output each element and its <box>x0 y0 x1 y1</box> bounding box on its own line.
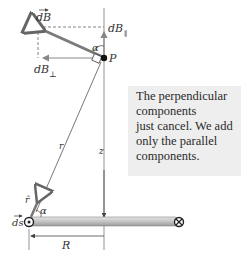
current-out-icon <box>25 218 34 227</box>
label-dB-vector: dB <box>36 11 51 24</box>
note-line: just cancel. We add <box>136 119 241 134</box>
label-r-hat: r̂ <box>25 195 30 205</box>
note-line: only the parallel <box>136 134 241 149</box>
label-point-p: P <box>108 52 117 65</box>
note-line: components. <box>136 149 241 164</box>
label-dB-perp-sub: ⊥ <box>49 70 57 79</box>
r-line <box>36 62 101 212</box>
note-line: The perpendicular <box>136 89 241 104</box>
current-in-icon <box>175 218 184 227</box>
explanation-note: The perpendicular components just cancel… <box>128 86 241 176</box>
point-p <box>101 55 107 61</box>
label-r: r <box>59 141 64 151</box>
label-dB-parallel-sub: ∥ <box>124 30 127 38</box>
label-dB-perp: dB <box>34 63 49 76</box>
label-R: R <box>61 239 70 252</box>
current-ring <box>29 217 179 226</box>
label-alpha-bottom: α <box>40 205 47 216</box>
label-dB-parallel: dB <box>108 22 123 35</box>
label-ds: ds <box>12 217 24 228</box>
label-z: z <box>98 146 104 156</box>
note-line: components <box>136 104 241 119</box>
label-alpha-top: α <box>92 42 99 53</box>
